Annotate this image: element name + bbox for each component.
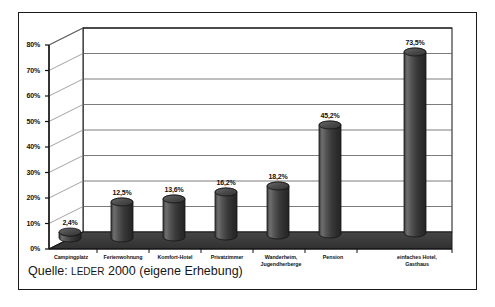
x-axis: [49, 249, 452, 253]
y-tick-label-0: 0%: [12, 245, 40, 252]
figure-container: 80% 70% 60% 50% 40% 30% 20% 10% 0% 2,4% …: [0, 0, 495, 307]
source-caption-suffix: 2000 (eigene Erhebung): [108, 264, 243, 278]
y-tick-label-80: 80%: [12, 41, 40, 48]
x-label-privatzimmer: Privatzimmer: [200, 254, 254, 261]
y-tick-label-10: 10%: [12, 220, 40, 227]
value-label-campingplatz: 2,4%: [50, 219, 90, 226]
x-label-einfaches-hotel-gasthaus: einfaches Hotel, Gasthaus: [386, 254, 448, 267]
y-tick-label-40: 40%: [12, 143, 40, 150]
value-label-wanderheim-jugendherberge: 18,2%: [258, 173, 298, 180]
plot-floor: [49, 232, 452, 249]
x-label-ferienwohnung: Ferienwohnung: [96, 254, 150, 261]
value-label-pension: 45,2%: [310, 112, 350, 119]
bar-wanderheim-jugendherberge[interactable]: [267, 182, 289, 239]
value-label-komfort-hotel: 13,6%: [154, 186, 194, 193]
bar-pension[interactable]: [319, 121, 341, 238]
value-label-einfaches-hotel-gasthaus: 73,5%: [395, 39, 435, 46]
source-caption: Quelle: LEDER 2000 (eigene Erhebung): [28, 264, 243, 278]
source-caption-prefix: Quelle:: [28, 264, 68, 278]
x-label-campingplatz: Campingplatz: [44, 254, 98, 261]
bar-komfort-hotel[interactable]: [163, 195, 185, 241]
source-caption-author: LEDER: [71, 266, 104, 277]
bar-chart: 80% 70% 60% 50% 40% 30% 20% 10% 0% 2,4% …: [0, 0, 495, 307]
y-tick-label-50: 50%: [12, 118, 40, 125]
bar-campingplatz[interactable]: [59, 228, 81, 242]
y-tick-label-60: 60%: [12, 92, 40, 99]
x-label-wanderheim-jugendherberge: Wanderheim, Jugendherberge: [252, 254, 310, 267]
y-axis: [45, 45, 49, 249]
y-tick-label-30: 30%: [12, 169, 40, 176]
x-label-komfort-hotel: Komfort-Hotel: [148, 254, 202, 261]
x-label-pension: Pension: [306, 254, 360, 261]
bar-einfaches-hotel-gasthaus[interactable]: [404, 48, 426, 237]
bar-ferienwohnung[interactable]: [111, 198, 133, 242]
value-label-ferienwohnung: 12,5%: [102, 189, 142, 196]
value-label-privatzimmer: 16,2%: [206, 179, 246, 186]
y-tick-label-20: 20%: [12, 194, 40, 201]
y-tick-label-70: 70%: [12, 67, 40, 74]
bar-privatzimmer[interactable]: [215, 188, 237, 240]
